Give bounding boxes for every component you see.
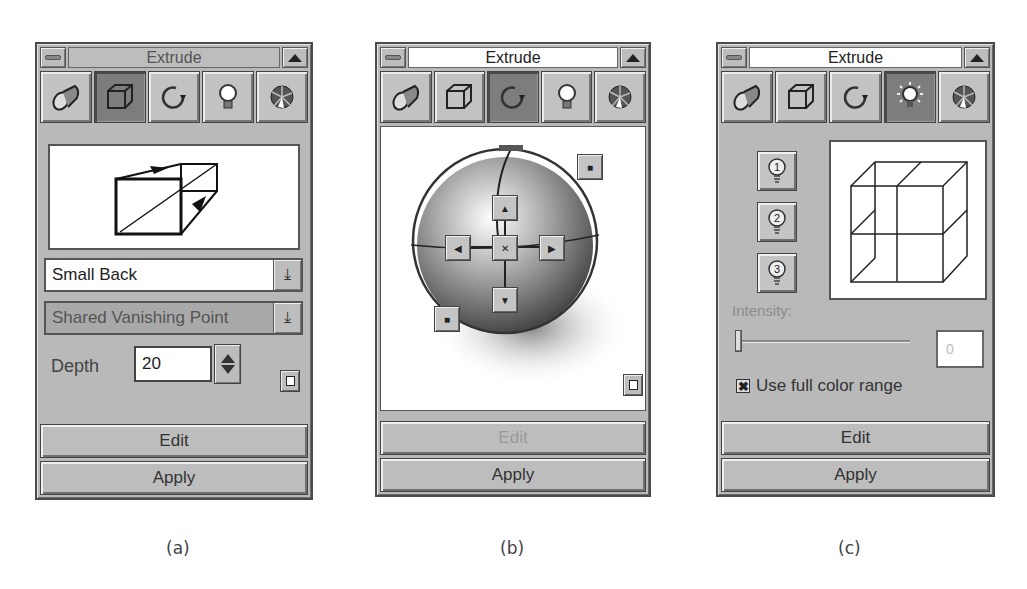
tab-presets[interactable] bbox=[380, 71, 432, 123]
tab-bar bbox=[380, 71, 646, 123]
extrude-type-value: Small Back bbox=[46, 260, 273, 290]
lightbulb-icon bbox=[550, 80, 584, 114]
page-flip-button[interactable] bbox=[623, 374, 643, 396]
tab-color[interactable] bbox=[938, 71, 990, 123]
collapse-button[interactable] bbox=[964, 47, 990, 68]
system-menu-button[interactable] bbox=[40, 47, 66, 68]
tab-depth[interactable] bbox=[775, 71, 827, 123]
page-flip-button[interactable] bbox=[280, 370, 300, 392]
caption-c: (c) bbox=[838, 538, 861, 558]
svg-text:1: 1 bbox=[774, 161, 780, 173]
rotate-up-button[interactable]: ▲ bbox=[492, 195, 518, 221]
color-wheel-icon bbox=[603, 80, 637, 114]
extruded-box-diagram bbox=[50, 146, 298, 248]
panel-title: Extrude bbox=[749, 47, 962, 68]
extrude-type-dropdown[interactable]: Small Back ⤓ bbox=[44, 258, 303, 292]
title-bar: Extrude bbox=[380, 47, 646, 68]
edit-button[interactable]: Edit bbox=[721, 421, 990, 455]
edit-button[interactable]: Edit bbox=[40, 424, 308, 458]
intensity-input[interactable]: 0 bbox=[936, 330, 984, 368]
triangle-up-icon bbox=[288, 54, 302, 62]
cube-icon bbox=[784, 80, 818, 114]
title-bar: Extrude bbox=[721, 47, 990, 68]
intensity-slider-track[interactable] bbox=[740, 340, 910, 343]
spin-up-icon[interactable] bbox=[221, 354, 235, 363]
light-1-button[interactable]: 1 bbox=[757, 151, 797, 191]
light-position-grid[interactable] bbox=[829, 140, 987, 300]
flashlight-icon bbox=[730, 80, 764, 114]
use-full-color-range-checkbox[interactable]: ✖ bbox=[736, 379, 750, 393]
caption-b: (b) bbox=[500, 538, 524, 558]
cube-icon bbox=[103, 80, 137, 114]
tab-presets[interactable] bbox=[40, 71, 92, 123]
light-2-button[interactable]: 2 bbox=[757, 202, 797, 242]
vanishing-point-dropdown[interactable]: Shared Vanishing Point ⤓ bbox=[44, 301, 303, 335]
collapse-button[interactable] bbox=[620, 47, 646, 68]
dropdown-arrow-icon[interactable]: ⤓ bbox=[273, 303, 301, 333]
wireframe-cube bbox=[831, 142, 985, 298]
tab-presets[interactable] bbox=[721, 71, 773, 123]
intensity-label: Intensity: bbox=[732, 302, 792, 319]
triangle-up-icon bbox=[626, 54, 640, 62]
lightbulb-icon bbox=[211, 80, 245, 114]
svg-text:3: 3 bbox=[774, 263, 780, 275]
tab-depth[interactable] bbox=[94, 71, 146, 123]
edit-button[interactable]: Edit bbox=[380, 421, 646, 455]
rotate-left-button[interactable]: ◀ bbox=[445, 235, 471, 261]
panel-title: Extrude bbox=[68, 47, 280, 68]
system-menu-button[interactable] bbox=[721, 47, 747, 68]
rotate-counterclockwise-button[interactable]: ■ bbox=[434, 306, 460, 332]
minus-icon bbox=[45, 55, 61, 60]
dropdown-arrow-icon[interactable]: ⤓ bbox=[273, 260, 301, 290]
tab-lighting[interactable] bbox=[202, 71, 254, 123]
rotation-sphere-area[interactable]: ▲ ✕ ◀ ▶ ▼ ■ ■ bbox=[380, 126, 646, 411]
color-wheel-icon bbox=[265, 80, 299, 114]
rotate-icon bbox=[839, 80, 873, 114]
page-icon bbox=[286, 376, 295, 386]
triangle-up-icon bbox=[970, 54, 984, 62]
tab-rotation[interactable] bbox=[148, 71, 200, 123]
tab-rotation[interactable] bbox=[487, 71, 539, 123]
rotation-sphere[interactable] bbox=[381, 127, 649, 410]
lightbulb-on-icon bbox=[893, 80, 927, 114]
panel-title: Extrude bbox=[408, 47, 618, 68]
depth-input[interactable]: 20 bbox=[134, 346, 212, 382]
rotate-clockwise-button[interactable]: ■ bbox=[577, 154, 603, 180]
tab-color[interactable] bbox=[256, 71, 308, 123]
collapse-button[interactable] bbox=[282, 47, 308, 68]
extrude-panel-lighting: Extrude 1 2 3 bbox=[716, 42, 995, 497]
rotate-icon bbox=[157, 80, 191, 114]
flashlight-icon bbox=[389, 80, 423, 114]
apply-button[interactable]: Apply bbox=[40, 461, 308, 495]
use-full-color-range-row[interactable]: ✖ Use full color range bbox=[736, 376, 902, 396]
lightbulb-1-icon: 1 bbox=[765, 156, 789, 186]
color-wheel-icon bbox=[947, 80, 981, 114]
rotate-icon bbox=[496, 80, 530, 114]
page-icon bbox=[629, 380, 638, 390]
rotate-right-button[interactable]: ▶ bbox=[539, 235, 565, 261]
lightbulb-3-icon: 3 bbox=[765, 258, 789, 288]
rotate-down-button[interactable]: ▼ bbox=[492, 287, 518, 313]
use-full-color-range-label: Use full color range bbox=[756, 376, 902, 396]
title-bar: Extrude bbox=[40, 47, 308, 68]
apply-button[interactable]: Apply bbox=[380, 458, 646, 492]
tab-bar bbox=[721, 71, 990, 123]
apply-button[interactable]: Apply bbox=[721, 458, 990, 492]
tab-depth[interactable] bbox=[434, 71, 486, 123]
intensity-slider-thumb[interactable] bbox=[735, 330, 742, 352]
system-menu-button[interactable] bbox=[380, 47, 406, 68]
tab-bar bbox=[40, 71, 308, 123]
light-3-button[interactable]: 3 bbox=[757, 253, 797, 293]
tab-rotation[interactable] bbox=[829, 71, 881, 123]
extrude-panel-depth: Extrude Small Back ⤓ bbox=[35, 42, 313, 500]
minus-icon bbox=[726, 55, 742, 60]
reset-rotation-button[interactable]: ✕ bbox=[492, 235, 518, 261]
tab-lighting[interactable] bbox=[884, 71, 936, 123]
tab-lighting[interactable] bbox=[541, 71, 593, 123]
spin-down-icon[interactable] bbox=[221, 365, 235, 374]
vanishing-point-value: Shared Vanishing Point bbox=[46, 303, 273, 333]
depth-spinner[interactable] bbox=[214, 344, 241, 384]
caption-a: (a) bbox=[166, 538, 190, 558]
tab-color[interactable] bbox=[594, 71, 646, 123]
flashlight-icon bbox=[49, 80, 83, 114]
